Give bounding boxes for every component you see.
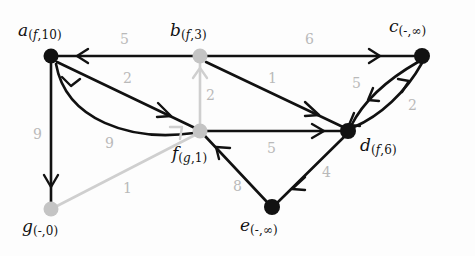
node-g[interactable] (44, 202, 59, 217)
edge-weight-c-d: 5 (352, 76, 361, 90)
node-label-c-dist: ∞ (411, 24, 421, 38)
node-label-f-pred: g (183, 151, 191, 165)
edge-c-to-d (349, 62, 418, 126)
node-a[interactable] (44, 49, 59, 64)
node-e[interactable] (264, 199, 280, 215)
edge-f-to-d (206, 124, 342, 138)
node-f[interactable] (193, 124, 208, 139)
edge-d-to-e (278, 136, 345, 202)
edge-weight-d-e: 4 (322, 165, 331, 179)
graph-figure: a(f,10) b(f,3) c(-,∞) d(f,6) e(-,∞) f(g,… (0, 0, 475, 256)
node-b[interactable] (193, 49, 208, 64)
node-label-a-name: a (18, 20, 28, 40)
edge-weight-f-b: 2 (206, 88, 215, 102)
node-c[interactable] (414, 48, 430, 64)
node-label-e: e(-,∞) (240, 217, 278, 236)
edge-weight-f-d: 5 (267, 141, 276, 155)
edge-weight-b-a: 5 (120, 32, 129, 46)
edge-b-to-c (205, 49, 416, 63)
node-label-c: c(-,∞) (389, 18, 426, 37)
node-label-g-name: g (22, 216, 33, 236)
node-label-d: d(f,6) (360, 137, 397, 156)
edge-f-to-b (193, 63, 207, 126)
node-label-e-dist: ∞ (263, 223, 273, 237)
edge-weight-b-c: 6 (305, 32, 314, 46)
node-d[interactable] (340, 123, 356, 139)
node-label-b: b(f,3) (170, 22, 207, 41)
edge-a-to-g (44, 63, 58, 202)
edge-d-to-c (354, 63, 422, 127)
node-label-b-dist: 3 (194, 28, 202, 42)
edge-weight-a-f-straight: 2 (123, 71, 132, 85)
edge-weight-g-f: 1 (123, 181, 132, 195)
node-label-g-dist: 0 (46, 224, 54, 238)
node-label-d-dist: 6 (384, 143, 392, 157)
node-label-f: f(g,1) (172, 145, 207, 164)
edge-weight-a-f-curved: 9 (105, 136, 114, 150)
node-label-c-name: c (389, 16, 399, 36)
graph-canvas (0, 0, 475, 256)
node-label-f-dist: 1 (195, 151, 203, 165)
node-label-g: g(-,0) (22, 218, 58, 237)
edge-weight-a-g: 9 (33, 127, 42, 141)
node-label-b-name: b (170, 20, 181, 40)
edge-b-to-a (58, 49, 196, 63)
edge-weight-d-c: 2 (408, 98, 417, 112)
node-label-a: a(f,10) (18, 22, 62, 41)
node-label-e-name: e (240, 215, 250, 235)
edge-weight-b-d: 1 (268, 71, 277, 85)
edge-weight-e-f: 8 (233, 179, 242, 193)
node-label-d-name: d (360, 135, 371, 155)
node-label-a-dist: 10 (41, 28, 56, 42)
